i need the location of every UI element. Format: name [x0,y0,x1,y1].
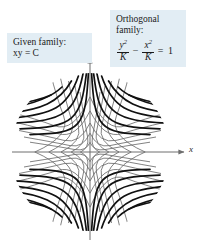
fraction-y-squared-over-k: y2 K [117,39,129,62]
orthogonal-family-title-line2: family: [116,25,182,36]
exponent-two: 2 [124,38,127,45]
exponent-two: 2 [149,38,152,45]
orthogonal-family-equation: y2 K − x2 K = 1 [116,39,182,62]
orthogonal-family-title-line1: Orthogonal [116,14,182,25]
figure-orthogonal-trajectories: y x Given family: xy = C Orthogonal fami… [0,0,201,243]
fraction-denominator-k: K [117,52,129,63]
given-family-title: Given family: [13,37,87,48]
equals-sign: = [158,45,164,57]
given-family-equation: xy = C [13,48,87,59]
x-axis-label: x [189,144,193,154]
minus-operator: − [133,45,139,57]
coordinate-axes [12,58,184,240]
equation-right-hand-side: 1 [168,45,173,57]
fraction-numerator-y: y2 [117,39,128,51]
fraction-numerator-x: x2 [142,39,153,51]
callout-orthogonal-family: Orthogonal family: y2 K − x2 K = 1 [110,10,186,67]
fraction-x-squared-over-k: x2 K [142,39,154,62]
fraction-denominator-k: K [142,52,154,63]
callout-given-family: Given family: xy = C [7,33,92,63]
